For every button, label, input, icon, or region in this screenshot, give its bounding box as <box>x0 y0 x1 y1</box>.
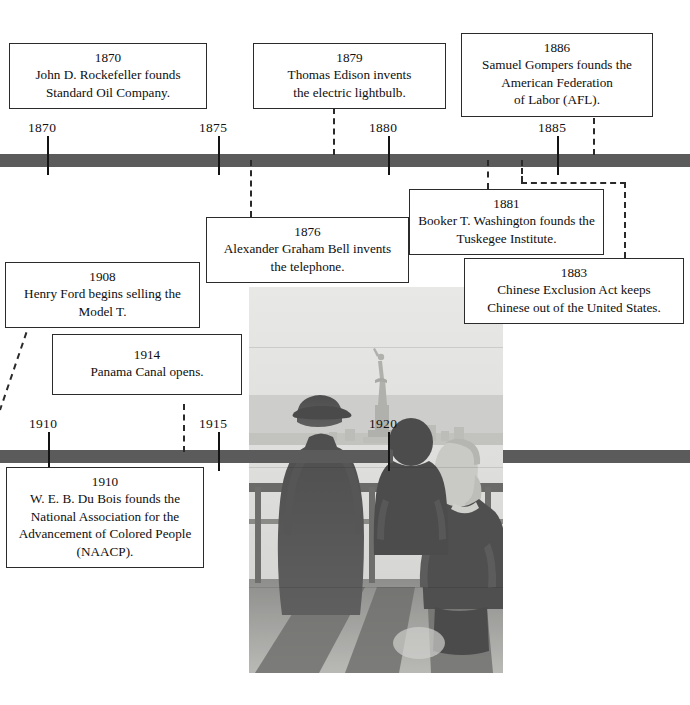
event-box-1914[interactable]: 1914 Panama Canal opens. <box>52 334 242 395</box>
photo-artwork <box>249 287 503 673</box>
event-text-line: Samuel Gompers founds the <box>468 56 646 73</box>
tick-label-1885: 1885 <box>538 120 566 136</box>
event-text-line: National Association for the <box>13 508 197 525</box>
event-text-line: W. E. B. Du Bois founds the <box>13 490 197 507</box>
event-box-1883[interactable]: 1883 Chinese Exclusion Act keeps Chinese… <box>464 258 684 324</box>
tick-label-1915: 1915 <box>199 416 227 432</box>
event-box-1879[interactable]: 1879 Thomas Edison invents the electric … <box>253 43 446 109</box>
event-text-line: Thomas Edison invents <box>260 66 439 83</box>
tick-label-1875: 1875 <box>199 120 227 136</box>
event-box-1908[interactable]: 1908 Henry Ford begins selling the Model… <box>5 262 200 328</box>
event-text-line: Alexander Graham Bell invents <box>213 240 402 257</box>
connector-1881 <box>487 160 489 189</box>
event-text-line: Advancement of Colored People <box>13 525 197 542</box>
tick-1875 <box>218 136 220 175</box>
event-text-line: John D. Rockefeller founds <box>16 66 200 83</box>
event-text-line: Tuskegee Institute. <box>416 230 597 247</box>
connector-1883-run <box>521 182 626 184</box>
event-text-line: Henry Ford begins selling the <box>12 285 193 302</box>
tick-label-1870: 1870 <box>28 120 56 136</box>
tick-1870 <box>47 136 49 175</box>
event-text-line: of Labor (AFL). <box>468 91 646 108</box>
tick-label-1880: 1880 <box>369 120 397 136</box>
event-box-1870[interactable]: 1870 John D. Rockefeller founds Standard… <box>9 43 207 109</box>
connector-1876 <box>250 160 252 217</box>
event-year: 1876 <box>213 223 402 240</box>
event-text-line: the electric lightbulb. <box>260 84 439 101</box>
timeline-figure: 1870 1875 1880 1885 1910 1915 1920 1870 … <box>0 0 690 705</box>
event-text-line: Model T. <box>12 303 193 320</box>
event-year: 1886 <box>468 39 646 56</box>
connector-1914 <box>183 404 185 452</box>
tick-1910 <box>48 432 50 471</box>
tick-label-1910: 1910 <box>29 416 57 432</box>
event-year: 1908 <box>12 268 193 285</box>
tick-label-1920: 1920 <box>369 416 397 432</box>
event-text-line: Standard Oil Company. <box>16 84 200 101</box>
event-year: 1883 <box>471 264 677 281</box>
event-year: 1879 <box>260 49 439 66</box>
immigrants-statue-of-liberty-photo <box>249 287 503 673</box>
timeline-bar-upper <box>0 154 690 167</box>
event-text-line: the telephone. <box>213 258 402 275</box>
event-text-line: Chinese out of the United States. <box>471 299 677 316</box>
tick-1885 <box>557 136 559 175</box>
event-text-line: American Federation <box>468 74 646 91</box>
event-text-line: (NAACP). <box>13 543 197 560</box>
event-year: 1881 <box>416 195 597 212</box>
event-year: 1910 <box>13 473 197 490</box>
event-text-line: Booker T. Washington founds the <box>416 212 597 229</box>
event-box-1886[interactable]: 1886 Samuel Gompers founds the American … <box>461 33 653 117</box>
event-text-line: Panama Canal opens. <box>59 363 235 380</box>
event-year: 1870 <box>16 49 200 66</box>
event-box-1876[interactable]: 1876 Alexander Graham Bell invents the t… <box>206 217 409 283</box>
event-box-1881[interactable]: 1881 Booker T. Washington founds the Tus… <box>409 189 604 255</box>
event-box-1910[interactable]: 1910 W. E. B. Du Bois founds the Nationa… <box>6 467 204 568</box>
event-text-line: Chinese Exclusion Act keeps <box>471 281 677 298</box>
connector-1883-stem <box>521 160 523 182</box>
timeline-bar-lower-over-photo <box>249 450 393 463</box>
connector-1883-drop <box>624 182 626 258</box>
tick-1920 <box>388 432 390 471</box>
tick-1880 <box>388 136 390 175</box>
event-year: 1914 <box>59 346 235 363</box>
tick-1915 <box>218 432 220 471</box>
connector-1886 <box>593 118 595 155</box>
connector-1879 <box>333 108 335 155</box>
connector-1908 <box>0 318 40 414</box>
